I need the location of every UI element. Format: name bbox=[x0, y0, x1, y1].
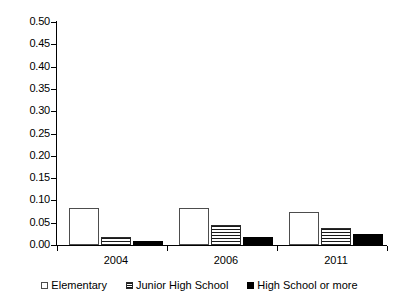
y-axis-tick bbox=[51, 22, 56, 23]
y-axis-label: 0.35 bbox=[6, 83, 50, 94]
y-axis-tick bbox=[51, 245, 56, 246]
legend-swatch-elementary-icon bbox=[41, 282, 48, 289]
y-axis-label: 0.30 bbox=[6, 105, 50, 116]
plot-area bbox=[57, 22, 387, 245]
bar-chart: 0.000.050.100.150.200.250.300.350.400.45… bbox=[0, 0, 399, 304]
legend-item-junior: Junior High School bbox=[126, 279, 228, 291]
x-axis-label-2004: 2004 bbox=[76, 254, 156, 266]
y-axis-label: 0.40 bbox=[6, 61, 50, 72]
legend-item-highschool: High School or more bbox=[247, 279, 357, 291]
bar-2006-highschool bbox=[243, 237, 273, 245]
bar-2004-elementary bbox=[69, 208, 99, 245]
legend-label: High School or more bbox=[257, 279, 357, 291]
legend-label: Elementary bbox=[51, 279, 107, 291]
y-axis-label: 0.20 bbox=[6, 150, 50, 161]
y-axis-label: 0.45 bbox=[6, 38, 50, 49]
bar-2004-highschool bbox=[133, 241, 163, 245]
bar-2006-junior bbox=[211, 225, 241, 245]
legend-swatch-highschool-icon bbox=[247, 282, 254, 289]
legend-label: Junior High School bbox=[136, 279, 228, 291]
y-axis-tick bbox=[51, 67, 56, 68]
legend-item-elementary: Elementary bbox=[41, 279, 107, 291]
y-axis-tick bbox=[51, 223, 56, 224]
bar-2011-elementary bbox=[289, 212, 319, 245]
x-axis-tick bbox=[277, 246, 278, 251]
y-axis-label: 0.15 bbox=[6, 172, 50, 183]
chart-legend: ElementaryJunior High SchoolHigh School … bbox=[0, 279, 399, 291]
y-axis-label: 0.10 bbox=[6, 194, 50, 205]
y-axis-label: 0.05 bbox=[6, 217, 50, 228]
y-axis-tick bbox=[51, 44, 56, 45]
y-axis-label: 0.50 bbox=[6, 16, 50, 27]
y-axis-label: 0.00 bbox=[6, 239, 50, 250]
bar-2004-junior bbox=[101, 237, 131, 245]
x-axis-label-2006: 2006 bbox=[186, 254, 266, 266]
bar-2011-highschool bbox=[353, 234, 383, 245]
y-axis-tick bbox=[51, 178, 56, 179]
bar-2011-junior bbox=[321, 228, 351, 245]
y-axis-tick bbox=[51, 156, 56, 157]
y-axis-label: 0.25 bbox=[6, 128, 50, 139]
x-axis-label-2011: 2011 bbox=[296, 254, 376, 266]
x-axis-tick bbox=[57, 246, 58, 251]
y-axis-tick bbox=[51, 111, 56, 112]
bar-2006-elementary bbox=[179, 208, 209, 245]
y-axis-tick bbox=[51, 134, 56, 135]
x-axis-line bbox=[56, 245, 387, 246]
x-axis-tick bbox=[387, 246, 388, 251]
legend-swatch-junior-icon bbox=[126, 282, 133, 289]
y-axis-tick bbox=[51, 200, 56, 201]
y-axis-tick bbox=[51, 89, 56, 90]
x-axis-tick bbox=[167, 246, 168, 251]
